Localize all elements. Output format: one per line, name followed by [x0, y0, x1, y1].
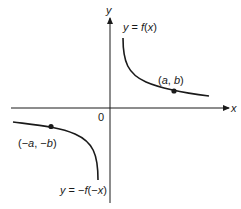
origin-label: 0 [98, 111, 104, 123]
point-neg-a-neg-b-marker [48, 124, 53, 129]
point-a-b-marker [171, 88, 176, 93]
curve-reflected-label: y = −f(−x) [59, 184, 107, 196]
y-axis-label: y [105, 4, 113, 16]
curve-f-label: y = f(x) [122, 21, 157, 33]
point-neg-a-neg-b-label: (−a, −b) [18, 137, 57, 149]
curve-f [123, 38, 209, 96]
curve-reflected [13, 122, 98, 180]
function-reflection-diagram: x y 0 y = f(x) (a, b) (−a, −b) y = −f(−x… [0, 0, 241, 209]
point-a-b-label: (a, b) [158, 74, 184, 86]
x-axis-label: x [230, 102, 237, 114]
